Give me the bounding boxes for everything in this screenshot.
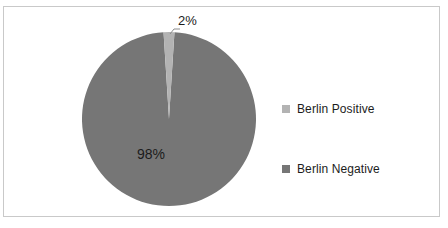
data-label-berlin-positive: 2% xyxy=(178,13,197,28)
data-label-berlin-negative: 98% xyxy=(137,146,165,162)
pie-chart-plot-area: 2% 98% Berlin Positive Berlin Negative xyxy=(4,7,441,218)
legend-label-berlin-positive: Berlin Positive xyxy=(297,102,375,116)
chart-frame: 2% 98% Berlin Positive Berlin Negative xyxy=(3,6,440,217)
chart-legend: Berlin Positive Berlin Negative xyxy=(282,79,432,199)
legend-item-berlin-negative[interactable]: Berlin Negative xyxy=(282,139,432,199)
legend-label-berlin-negative: Berlin Negative xyxy=(297,162,380,176)
legend-item-berlin-positive[interactable]: Berlin Positive xyxy=(282,79,432,139)
legend-swatch-icon-berlin-negative xyxy=(282,165,290,173)
legend-swatch-icon-berlin-positive xyxy=(282,105,290,113)
